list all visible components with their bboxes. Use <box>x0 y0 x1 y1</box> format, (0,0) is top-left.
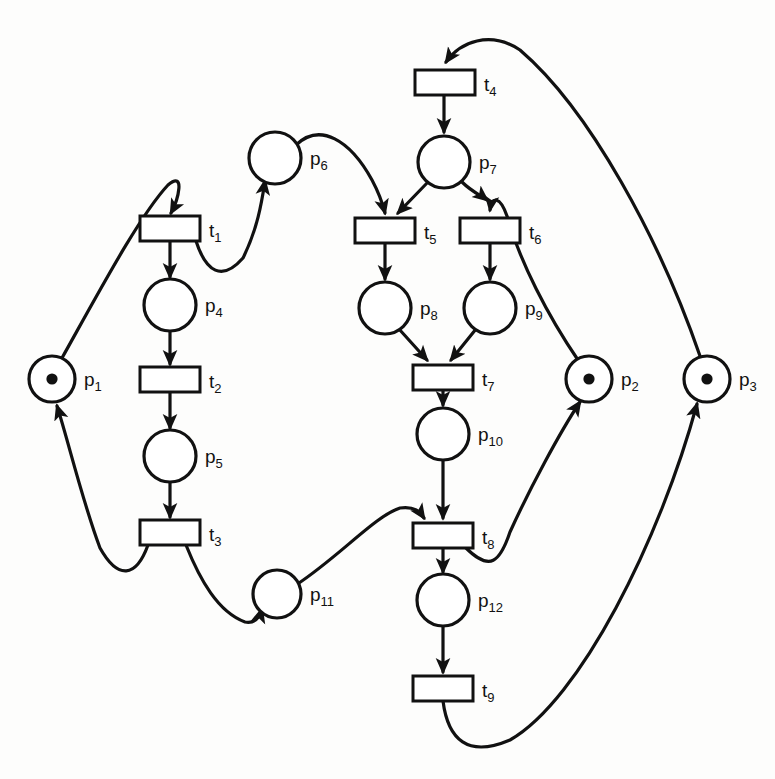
petri-net-canvas: t1t2t3t4t5t6t7t8t9 p1p2p3p4p5p6p7p8p9p10… <box>0 0 775 779</box>
place-p2[interactable]: p2 <box>566 356 639 402</box>
arc-t1-to-p6 <box>196 181 265 271</box>
place-circle-p5[interactable] <box>144 430 196 482</box>
place-p1[interactable]: p1 <box>29 356 102 402</box>
arc-t3-to-p1 <box>57 406 148 571</box>
place-circle-p7[interactable] <box>418 136 470 188</box>
transition-rect-t2[interactable] <box>140 367 200 392</box>
arc-p8-to-t7 <box>399 329 427 360</box>
arc-p7-to-t5 <box>398 182 428 213</box>
place-p11[interactable]: p11 <box>253 570 334 618</box>
token-p2 <box>583 373 594 384</box>
transition-t2[interactable]: t2 <box>140 367 222 396</box>
arc-t3-to-p11 <box>186 545 262 622</box>
transition-rect-t9[interactable] <box>413 676 473 701</box>
transition-t5[interactable]: t5 <box>355 218 437 247</box>
transition-t8[interactable]: t8 <box>413 523 495 552</box>
transition-rect-t8[interactable] <box>413 523 473 548</box>
place-label-p1: p1 <box>84 369 102 394</box>
transition-rect-t1[interactable] <box>140 216 200 241</box>
transition-t3[interactable]: t3 <box>140 520 222 549</box>
arc-p11-to-t8 <box>296 508 424 585</box>
arc-p7-to-t6 <box>462 182 487 200</box>
arc-p9-to-t7 <box>451 329 476 360</box>
place-label-p8: p8 <box>420 298 438 323</box>
transition-label-t7: t7 <box>482 369 495 394</box>
place-label-p3: p3 <box>739 369 757 394</box>
transition-rect-t6[interactable] <box>460 218 520 243</box>
place-label-p10: p10 <box>478 424 503 449</box>
place-label-p7: p7 <box>479 152 497 177</box>
transition-rect-t4[interactable] <box>415 70 475 95</box>
transition-t9[interactable]: t9 <box>413 676 495 705</box>
place-circle-p11[interactable] <box>253 570 301 618</box>
transition-t1[interactable]: t1 <box>140 216 222 245</box>
place-label-p11: p11 <box>310 584 334 609</box>
transition-label-t1: t1 <box>209 220 222 245</box>
transition-rect-t7[interactable] <box>413 365 473 390</box>
place-circle-p4[interactable] <box>144 279 196 331</box>
arc-p6-to-t5 <box>296 135 385 213</box>
transition-label-t6: t6 <box>529 222 542 247</box>
place-layer: p1p2p3p4p5p6p7p8p9p10p11p12 <box>29 132 757 626</box>
place-label-p6: p6 <box>310 148 328 173</box>
transition-label-t5: t5 <box>424 222 437 247</box>
place-p10[interactable]: p10 <box>417 408 503 460</box>
place-circle-p12[interactable] <box>417 574 469 626</box>
place-p9[interactable]: p9 <box>464 282 543 334</box>
token-p1 <box>46 373 57 384</box>
place-circle-p10[interactable] <box>417 408 469 460</box>
place-label-p5: p5 <box>205 446 223 471</box>
transition-rect-t5[interactable] <box>355 218 415 243</box>
transition-t6[interactable]: t6 <box>460 218 542 247</box>
place-label-p9: p9 <box>525 298 543 323</box>
petri-net-svg: t1t2t3t4t5t6t7t8t9 p1p2p3p4p5p6p7p8p9p10… <box>0 0 775 779</box>
transition-label-t3: t3 <box>209 524 222 549</box>
transition-t4[interactable]: t4 <box>415 70 497 99</box>
place-circle-p6[interactable] <box>249 132 301 184</box>
transition-rect-t3[interactable] <box>140 520 200 545</box>
place-label-p2: p2 <box>621 369 639 394</box>
transition-label-t8: t8 <box>482 527 495 552</box>
arc-p1-to-t1 <box>62 181 179 358</box>
place-circle-p9[interactable] <box>464 282 516 334</box>
place-p5[interactable]: p5 <box>144 430 223 482</box>
place-p12[interactable]: p12 <box>417 574 503 626</box>
token-p3 <box>701 373 712 384</box>
place-circle-p8[interactable] <box>359 282 411 334</box>
transition-label-t2: t2 <box>209 371 222 396</box>
transition-t7[interactable]: t7 <box>413 365 495 394</box>
place-p3[interactable]: p3 <box>684 356 757 402</box>
place-p4[interactable]: p4 <box>144 279 223 331</box>
place-p8[interactable]: p8 <box>359 282 438 334</box>
place-label-p12: p12 <box>478 590 503 615</box>
place-label-p4: p4 <box>205 295 223 320</box>
place-p7[interactable]: p7 <box>418 136 497 188</box>
transition-label-t4: t4 <box>484 74 497 99</box>
place-p6[interactable]: p6 <box>249 132 328 184</box>
transition-label-t9: t9 <box>482 680 495 705</box>
